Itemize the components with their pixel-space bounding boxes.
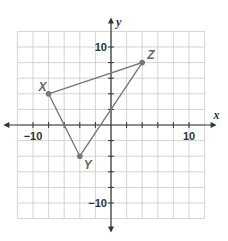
vertex-label-x: X (38, 80, 48, 94)
vertex-y (77, 153, 83, 159)
y-tick-label: 10 (95, 41, 107, 53)
y-axis-label: y (114, 15, 122, 29)
axes (3, 17, 216, 232)
y-tick-label: −10 (88, 197, 107, 209)
coordinate-plane: −101010−10xyXYZ (0, 0, 228, 241)
x-axis-arrow-right-icon (211, 122, 217, 128)
x-axis-label: x (213, 108, 220, 122)
vertex-z (139, 60, 145, 66)
x-axis-arrow-left-icon (3, 122, 9, 128)
y-axis-arrow-up-icon (108, 17, 114, 23)
x-tick-label: 10 (183, 130, 195, 142)
y-axis-arrow-down-icon (108, 227, 114, 233)
x-tick-label: −10 (24, 130, 43, 142)
vertex-x (46, 91, 52, 97)
labels: −101010−10xyXYZ (24, 15, 220, 209)
vertex-label-z: Z (146, 48, 155, 62)
vertex-label-y: Y (84, 158, 93, 172)
